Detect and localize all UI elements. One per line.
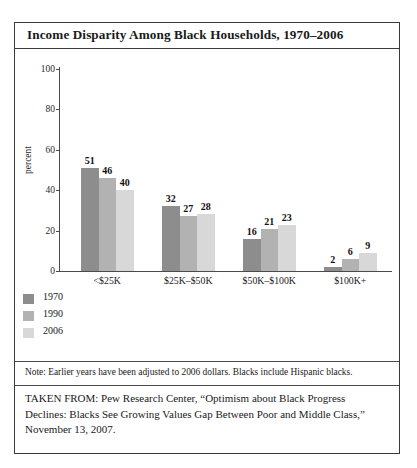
x-axis-label-2: $25K–$50K (143, 275, 233, 286)
bar-1970-$100K+: 2 (324, 267, 342, 271)
legend-swatch-icon (23, 294, 34, 304)
legend-label: 2006 (43, 325, 63, 336)
page-title: Income Disparity Among Black Households,… (27, 27, 343, 43)
bar-value-label: 32 (166, 193, 176, 204)
bar-1990-$100K+: 6 (342, 259, 360, 271)
bar-value-label: 23 (282, 212, 292, 223)
bar-2006-$100K+: 9 (359, 253, 377, 271)
legend-item-1970: 1970 (23, 291, 183, 308)
bar-rect (342, 259, 360, 271)
bar-rect (359, 253, 377, 271)
tick-mark (56, 150, 60, 151)
tick-mark (56, 231, 60, 232)
source-text: TAKEN FROM: Pew Research Center, “Optimi… (25, 391, 387, 438)
y-axis-tick-20: 20 (33, 226, 55, 236)
legend-label: 1970 (43, 291, 63, 302)
bar-2006-$50K–$100K: 23 (278, 225, 296, 271)
bar-value-label: 6 (348, 246, 353, 257)
x-axis-label-1: <$25K (62, 275, 152, 286)
bar-1990-$50K–$100K: 21 (261, 229, 279, 271)
bar-rect (324, 267, 342, 271)
legend-swatch-icon (23, 328, 34, 338)
bar-rect (278, 225, 296, 271)
bar-rect (162, 206, 180, 271)
chart-legend: 197019902006 (23, 291, 183, 342)
note-text: Note: Earlier years have been adjusted t… (25, 366, 391, 379)
bar-1970-$50K–$100K: 16 (243, 239, 261, 271)
x-axis-line (59, 271, 392, 272)
source-divider (15, 385, 399, 386)
y-axis-tick-40: 40 (33, 185, 55, 195)
x-axis-label-4: $100K+ (305, 275, 395, 286)
x-axis-label-3: $50K–$100K (224, 275, 314, 286)
y-axis-tick-0: 0 (33, 266, 55, 276)
bar-1970-<$25K: 51 (81, 168, 99, 271)
bar-rect (180, 216, 198, 271)
y-axis-label: percent (23, 130, 33, 190)
y-axis-line (59, 67, 60, 272)
bar-rect (243, 239, 261, 271)
bar-rect (116, 190, 134, 271)
y-axis-tick-80: 80 (33, 104, 55, 114)
bar-2006-$25K–$50K: 28 (197, 214, 215, 271)
bar-rect (99, 178, 117, 271)
figure-frame: Income Disparity Among Black Households,… (14, 22, 400, 454)
bar-value-label: 51 (85, 155, 95, 166)
bar-value-label: 2 (330, 254, 335, 265)
legend-swatch-icon (23, 311, 34, 321)
legend-item-2006: 2006 (23, 325, 183, 342)
tick-mark (56, 190, 60, 191)
y-axis-tick-60: 60 (33, 145, 55, 155)
chart-plot-area: percent 020406080100 5146403227281621232… (15, 49, 401, 289)
bar-value-label: 27 (183, 203, 193, 214)
bar-value-label: 9 (365, 240, 370, 251)
y-axis-tick-100: 100 (33, 64, 55, 74)
legend-item-1990: 1990 (23, 308, 183, 325)
bar-value-label: 28 (201, 201, 211, 212)
bar-value-label: 16 (247, 226, 257, 237)
bar-rect (81, 168, 99, 271)
bar-value-label: 40 (120, 177, 130, 188)
note-divider (15, 361, 399, 362)
tick-mark (56, 109, 60, 110)
legend-label: 1990 (43, 308, 63, 319)
title-band: Income Disparity Among Black Households,… (15, 23, 399, 49)
bar-value-label: 46 (102, 165, 112, 176)
bar-1970-$25K–$50K: 32 (162, 206, 180, 271)
tick-mark (56, 271, 60, 272)
bar-1990-$25K–$50K: 27 (180, 216, 198, 271)
bar-value-label: 21 (264, 216, 274, 227)
bar-1990-<$25K: 46 (99, 178, 117, 271)
bar-2006-<$25K: 40 (116, 190, 134, 271)
bar-rect (197, 214, 215, 271)
bar-rect (261, 229, 279, 271)
tick-mark (56, 69, 60, 70)
